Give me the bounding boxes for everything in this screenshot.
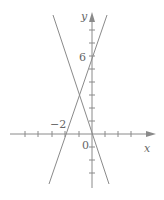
x-axis-arrow-icon [146, 131, 156, 137]
x-intercept-label: −2 [50, 118, 66, 131]
line-y-equals-neg-3x [53, 15, 109, 184]
y-axis [89, 20, 95, 188]
coordinate-plot: y x 0 6 −2 [0, 0, 164, 200]
origin-label: 0 [82, 139, 89, 152]
x-axis [10, 131, 150, 137]
line-y-equals-3x-plus-6 [49, 15, 107, 184]
y-intercept-label: 6 [79, 51, 86, 64]
y-axis-arrow-icon [89, 12, 95, 22]
y-axis-label: y [80, 10, 88, 23]
x-axis-label: x [144, 142, 151, 155]
